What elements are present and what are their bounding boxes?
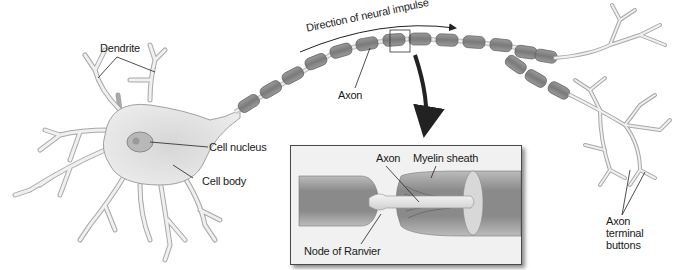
axon-terminal-label-line3: buttons (606, 239, 644, 251)
myelin-segments (236, 33, 571, 114)
cell-nucleus-label: Cell nucleus (209, 141, 267, 153)
axon-label: Axon (338, 89, 362, 101)
axon-terminal-label-line2: terminal (606, 227, 644, 239)
inset-panel: Axon Myelin sheath Node of Ranvier (290, 145, 522, 265)
cell-nucleus-shape (127, 132, 153, 152)
axon-shape (235, 39, 530, 112)
axon-terminal-label-line1: Axon (606, 215, 644, 227)
axon-terminal-label: Axon terminal buttons (606, 215, 644, 251)
inset-axon-label: Axon (376, 152, 400, 164)
node-of-ranvier-label: Node of Ranvier (304, 245, 381, 257)
dendrite-label: Dendrite (100, 42, 140, 54)
neuron-diagram: Axon Myelin sheath Node of Ranvier Dendr… (0, 0, 680, 270)
magnify-arrow (415, 55, 426, 130)
cell-body-label: Cell body (202, 175, 246, 187)
axon-terminals (555, 5, 670, 185)
myelin-sheath-label: Myelin sheath (413, 152, 478, 164)
